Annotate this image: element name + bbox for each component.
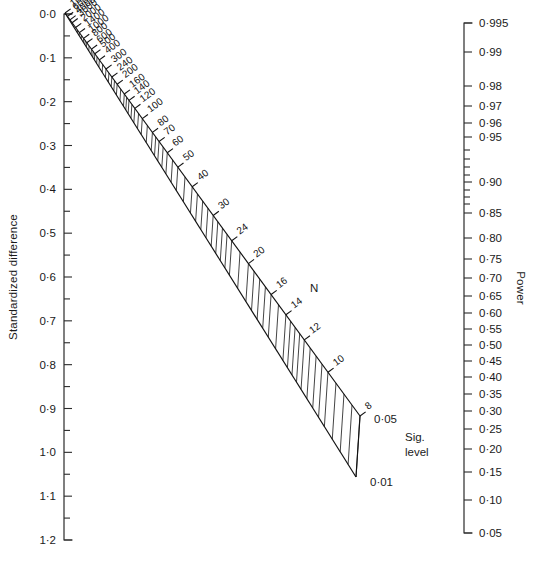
left-axis-title: Standardized difference [7, 214, 19, 340]
right-axis-tick-label: 0·30 [479, 405, 502, 417]
n-band-tick [117, 80, 123, 84]
right-axis-ticks [464, 23, 472, 533]
n-band-tick [142, 114, 148, 118]
n-band-rule [324, 372, 328, 426]
right-axis-tick-label: 0·60 [479, 307, 502, 319]
power-nomogram-figure: 0·00·10·20·30·40·50·60·70·80·91·01·11·2 … [0, 0, 535, 561]
left-axis-tick-label: 0·4 [39, 183, 56, 195]
n-band-tick [112, 73, 118, 77]
right-axis-tick-label: 0·50 [479, 339, 502, 351]
n-band-rule [126, 97, 127, 110]
n-band-rule [166, 153, 167, 174]
n-band-rule [105, 69, 106, 77]
n-band-tick [248, 259, 254, 263]
n-band-tick [304, 336, 310, 340]
n-band-rule [340, 394, 344, 452]
n-band-tick [360, 412, 366, 416]
n-band-rule [102, 64, 103, 72]
n-band-rule [134, 108, 135, 122]
n-band-tick [87, 39, 93, 43]
n-band-rule [206, 208, 208, 238]
right-axis-tick-label: 0·75 [479, 253, 502, 265]
n-band-tick [328, 368, 334, 372]
n-band-rule [225, 234, 227, 268]
n-band-rule [151, 132, 152, 150]
n-band-tick [271, 290, 277, 294]
n-band-rule [297, 334, 300, 383]
left-axis-tick-label: 1·2 [39, 534, 56, 546]
n-band-tick [106, 65, 112, 69]
n-scale-tick-label: 50 [181, 147, 197, 163]
left-axis-tick-label: 1·0 [39, 446, 56, 458]
n-band-rule [211, 215, 213, 246]
n-band-rule [257, 279, 260, 319]
n-band-tick [65, 9, 71, 13]
right-axis-tick-label: 0·95 [479, 131, 502, 143]
n-band-rule [116, 84, 117, 95]
n-band-rule [263, 287, 266, 328]
n-band-rule [307, 348, 310, 399]
right-axis-tick-label: 0·96 [479, 117, 502, 129]
n-band-tick [84, 34, 90, 38]
right-axis: 0·9950·990·980·970·960·950·900·850·800·7… [464, 17, 508, 539]
n-scale-tick-label: 30 [216, 195, 232, 211]
n-band-tick [213, 211, 219, 215]
right-axis-tick-label: 0·995 [479, 17, 508, 29]
left-axis-tick-label: 0·0 [39, 8, 56, 20]
left-axis-tick-label: 0·9 [39, 403, 56, 415]
right-axis-tick-label: 0·85 [479, 207, 502, 219]
right-axis-tick-label: 0·40 [479, 371, 502, 383]
n-band-rule [158, 141, 159, 160]
n-band-rule [162, 147, 163, 167]
right-axis-tick-label: 0·55 [479, 323, 502, 335]
n-band-tick [159, 137, 165, 141]
n-band-rule [216, 222, 218, 254]
n-band-tick [79, 28, 85, 32]
n-scale-tick-label: 8 [363, 399, 374, 411]
right-axis-tick-label: 0·25 [479, 423, 502, 435]
right-axis-tick-label: 0·15 [479, 466, 502, 478]
n-band-rule [120, 89, 121, 101]
n-band-rule [123, 94, 124, 106]
n-band-labels: 1000060004000300020001400100080060050040… [68, 0, 374, 412]
n-band-rule [108, 73, 109, 82]
sig-level-title-line1: Sig. [405, 431, 425, 443]
left-axis-tick-label: 0·2 [39, 96, 56, 108]
right-axis-tick-label: 0·99 [479, 46, 502, 58]
n-band-rule [348, 405, 352, 464]
right-axis-tick-label: 0·98 [479, 80, 502, 92]
left-axis-tick-label: 0·5 [39, 227, 56, 239]
n-band-rule [114, 81, 115, 91]
n-band-ticks [65, 9, 366, 416]
left-axis-ticks [64, 14, 72, 540]
n-band-rule [268, 295, 271, 338]
n-scale-tick-label: 60 [170, 133, 186, 149]
n-band-rule [246, 264, 248, 302]
right-axis-tick-label: 0·70 [479, 272, 502, 284]
n-band-tick [76, 23, 82, 27]
n-band-tick [167, 149, 173, 153]
n-scale-tick-label: 10 [331, 352, 347, 368]
n-band-tick [95, 50, 101, 54]
n-band-end-cap [356, 416, 360, 477]
n-band-upper-edge [65, 13, 360, 416]
n-band-tick [178, 163, 184, 167]
left-axis: 0·00·10·20·30·40·50·60·70·80·91·01·11·2 [39, 8, 72, 546]
n-band-rule [332, 383, 336, 439]
n-band-rule [238, 252, 240, 288]
right-axis-tick-label: 0·05 [479, 527, 502, 539]
n-band-rule [319, 364, 322, 417]
n-band-rule [183, 177, 185, 202]
n-band: 1000060004000300020001400100080060050040… [65, 0, 374, 477]
right-axis-tick-label: 0·65 [479, 290, 502, 302]
sig-level-group: 0·05 0·01 Sig. level [370, 413, 429, 488]
n-band-rule [138, 113, 139, 128]
n-band-rule [111, 77, 112, 87]
n-band-tick [152, 128, 158, 132]
left-axis-tick-label: 0·8 [39, 359, 56, 371]
n-band-tick [135, 104, 141, 108]
n-band-tick [129, 96, 135, 100]
n-band-rule [196, 194, 198, 221]
left-axis-tick-label: 0·3 [39, 140, 56, 152]
n-scale-tick-label: 12 [307, 320, 323, 336]
